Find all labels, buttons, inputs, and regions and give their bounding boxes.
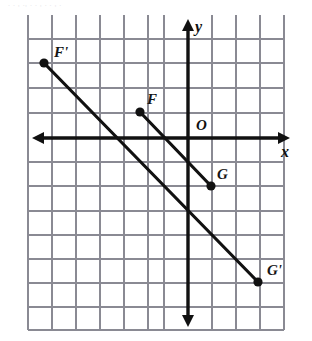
point-marker-F-prime [39,58,48,67]
coordinate-plane-figure: . . , ., . . , . . , . [0,0,312,341]
y-axis-arrow-up [182,19,194,31]
point-label-G: G [217,166,228,182]
point-label-G-prime: G' [267,262,282,278]
coordinate-plane-svg: F' F G G' O x y [0,0,312,341]
x-axis-label: x [280,143,289,160]
point-marker-F [135,107,144,116]
origin-label: O [196,117,207,133]
x-axis-arrow-left [32,132,44,144]
axes [36,25,286,320]
point-label-F-prime: F' [53,44,68,60]
grid-lines [28,15,284,330]
point-marker-G [206,181,215,190]
y-axis-arrow-down [182,315,194,327]
point-marker-G-prime [253,277,262,286]
point-label-F: F [146,91,157,107]
y-axis-label: y [193,18,203,36]
axis-arrowheads [32,19,290,327]
